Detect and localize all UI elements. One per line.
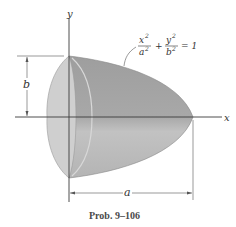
svg-text:y: y (165, 35, 172, 45)
b-arrow-top (26, 57, 29, 62)
b-arrow-bottom (26, 111, 29, 116)
svg-text:x: x (139, 35, 144, 45)
svg-text:2: 2 (144, 45, 149, 52)
equation-leader (124, 47, 136, 66)
svg-text:2: 2 (171, 45, 176, 52)
y-axis-label: y (66, 8, 73, 19)
figure-caption: Prob. 9–106 (89, 210, 140, 221)
a-label: a (124, 186, 131, 199)
b-label: b (23, 78, 30, 91)
svg-text:2: 2 (171, 32, 176, 39)
svg-text:2: 2 (144, 32, 149, 39)
a-arrow-right (187, 192, 192, 195)
paraboloid-diagram: x y b a x 2 a 2 + y 2 b 2 = 1 Prob. 9–10… (0, 0, 236, 227)
svg-text:+: + (155, 41, 163, 51)
svg-text:a: a (139, 47, 144, 57)
a-arrow-left (70, 192, 75, 195)
ellipse-equation: x 2 a 2 + y 2 b 2 = 1 (138, 32, 197, 57)
x-axis-label: x (224, 112, 230, 123)
svg-text:= 1: = 1 (181, 41, 197, 51)
